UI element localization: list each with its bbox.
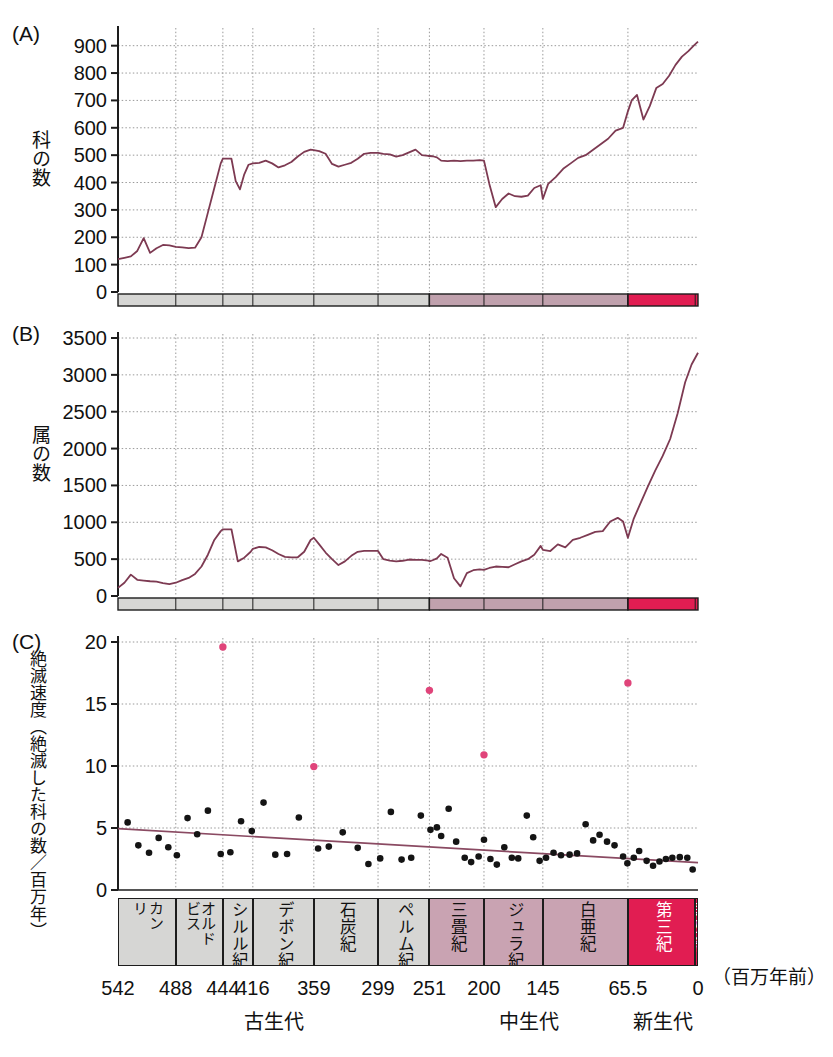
period-box-6: 三畳紀 <box>429 898 484 966</box>
period-box-4: 石炭紀 <box>314 898 378 966</box>
x-tick-145: 145 <box>508 978 578 998</box>
panel-c-point <box>656 858 663 865</box>
panel-c-point <box>184 815 191 822</box>
panel-c-point <box>135 842 142 849</box>
figure-root: (A) 科の数 0100200300400500600700800900 (B)… <box>0 0 833 1057</box>
panel-a-ytick: 100 <box>74 254 107 276</box>
panel-c-point <box>227 849 234 856</box>
panel-b-ytick: 0 <box>96 585 107 607</box>
period-label: ペルム紀 <box>395 899 412 966</box>
panel-a-ytick: 300 <box>74 199 107 221</box>
panel-c-point <box>663 856 670 863</box>
x-tick-65.5: 65.5 <box>593 978 663 998</box>
panel-c-point <box>604 838 611 845</box>
panel-c-point <box>558 852 565 859</box>
panel-a-series-line <box>118 42 698 260</box>
panel-b-chart: 0500100015002000250030003500 <box>0 312 833 612</box>
panel-c-mass-extinction-point <box>624 679 631 686</box>
panel-c-point <box>468 859 475 866</box>
panel-c-point <box>501 844 508 851</box>
panel-c-point <box>494 861 501 868</box>
panel-b-ytick: 500 <box>74 548 107 570</box>
panel-a-ytick: 700 <box>74 89 107 111</box>
period-label: カン <box>147 899 162 931</box>
period-label: 白亜紀 <box>577 899 594 952</box>
panel-c-point <box>124 819 131 826</box>
panel-c-mass-extinction-point <box>480 751 487 758</box>
panel-c-point <box>217 851 224 858</box>
panel-c-point <box>205 807 212 814</box>
panel-c-point <box>684 854 691 861</box>
period-box-8: 白亜紀 <box>543 898 628 966</box>
period-box-3: デボン紀 <box>253 898 314 966</box>
panel-c-mass-extinction-point <box>310 763 317 770</box>
panel-c-ytick: 10 <box>85 755 107 777</box>
panel-c-point <box>194 831 201 838</box>
panel-c-point <box>677 854 684 861</box>
panel-a-ytick: 800 <box>74 62 107 84</box>
period-box-5: ペルム紀 <box>378 898 429 966</box>
period-label: オルド <box>199 899 214 946</box>
panel-b-ytick: 3500 <box>63 327 108 349</box>
era-label-1: 中生代 <box>459 1012 599 1032</box>
panel-c-point <box>461 854 468 861</box>
panel-c-point <box>445 805 452 812</box>
panel-b-ytick: 3000 <box>63 364 108 386</box>
panel-c-ytick: 5 <box>96 817 107 839</box>
panel-c-point <box>650 863 657 870</box>
panel-c-point <box>398 856 405 863</box>
panel-c-point <box>284 851 291 858</box>
era-label-2: 新生代 <box>593 1012 733 1032</box>
panel-c-point <box>272 851 279 858</box>
panel-c-point <box>146 850 153 857</box>
panel-c-point <box>155 835 162 842</box>
era-label-0: 古生代 <box>204 1012 344 1032</box>
panel-c-point <box>365 861 372 868</box>
panel-c-point <box>536 858 543 865</box>
panel-c-point <box>453 838 460 845</box>
panel-c-point <box>643 858 650 865</box>
period-label: 石炭紀 <box>338 899 355 952</box>
period-box-2: シルル紀 <box>223 898 253 966</box>
x-axis-unit-label: （百万年前） <box>712 962 826 989</box>
panel-c-point <box>388 809 395 816</box>
period-label: ジュラ紀 <box>505 899 522 966</box>
period-box-7: ジュラ紀 <box>484 898 543 966</box>
panel-c-point <box>636 848 643 855</box>
panel-c-mass-extinction-point <box>426 687 433 694</box>
panel-a-ytick: 200 <box>74 226 107 248</box>
period-label: デボン紀 <box>275 899 292 966</box>
period-label: シルル紀 <box>229 899 246 966</box>
panel-c-point <box>611 842 618 849</box>
panel-a-ytick: 0 <box>96 281 107 303</box>
period-label: 第三紀 <box>653 899 670 952</box>
panel-c-point <box>487 856 494 863</box>
period-label: 三畳紀 <box>448 899 465 952</box>
panel-c-point <box>590 837 597 844</box>
panel-c-point <box>475 853 482 860</box>
panel-c-point <box>669 854 676 861</box>
panel-a-ytick: 500 <box>74 144 107 166</box>
period-box-0: リカン <box>118 898 176 966</box>
panel-c-point <box>408 854 415 861</box>
panel-c-point <box>574 850 581 857</box>
panel-c-point <box>582 821 589 828</box>
panel-c-point <box>515 855 522 862</box>
panel-c-point <box>315 845 322 852</box>
period-box-10: 第四紀 <box>695 898 698 966</box>
period-box-1: ビスオルド <box>176 898 223 966</box>
panel-a-ytick: 900 <box>74 35 107 57</box>
panel-c-point <box>550 850 557 857</box>
panel-c-point <box>238 818 245 825</box>
panel-c-point <box>689 866 696 873</box>
panel-a-chart: 0100200300400500600700800900 <box>0 0 833 310</box>
panel-c-point <box>377 855 384 862</box>
panel-c-point <box>481 836 488 843</box>
x-tick-359: 359 <box>279 978 349 998</box>
panel-b-ytick: 1000 <box>63 511 108 533</box>
period-box-9: 第三紀 <box>628 898 695 966</box>
panel-b-ytick: 1500 <box>63 474 108 496</box>
panel-c-point <box>630 854 637 861</box>
panel-c-point <box>543 854 550 861</box>
period-label: リ <box>132 899 147 916</box>
